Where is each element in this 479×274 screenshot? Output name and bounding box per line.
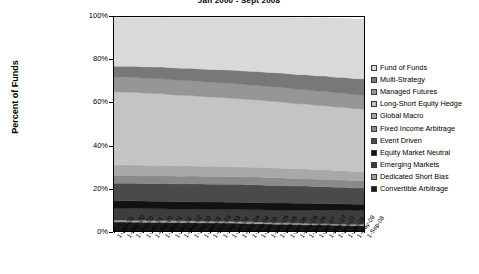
legend-item-label: Dedicated Short Bias	[380, 173, 449, 181]
legend-item[interactable]: Event Driven	[371, 135, 479, 147]
x-axis-tick-mark	[345, 229, 346, 233]
x-axis-tick-mark	[364, 229, 365, 233]
x-axis-tick-mark	[124, 229, 125, 233]
area-series-group	[114, 17, 364, 231]
y-axis-tick-label: 0%	[74, 228, 108, 236]
legend-item[interactable]: Fund of Funds	[371, 62, 479, 74]
x-axis-tick-mark	[162, 229, 163, 233]
legend-item-label: Fixed Income Arbitrage	[380, 125, 455, 133]
legend-item[interactable]: Long-Short Equity Hedge	[371, 98, 479, 110]
legend-swatch-icon	[371, 150, 377, 156]
legend-item[interactable]: Convertible Arbitrage	[371, 183, 479, 195]
x-axis-tick-mark	[210, 229, 211, 233]
chart-legend: Fund of FundsMulti-StrategyManaged Futur…	[371, 62, 479, 195]
x-axis-tick-mark	[326, 229, 327, 233]
legend-swatch-icon	[371, 174, 377, 180]
x-axis-ticks: 1-Jan-001-May-001-Sep-001-Jan-011-May-01…	[113, 233, 365, 274]
legend-item-label: Event Driven	[380, 137, 422, 145]
x-axis-tick-mark	[220, 229, 221, 233]
y-axis-tick-label: 80%	[74, 55, 108, 63]
plot-area	[113, 16, 365, 232]
x-axis-tick-mark	[268, 229, 269, 233]
x-axis-tick-mark	[249, 229, 250, 233]
legend-item[interactable]: Fixed Income Arbitrage	[371, 122, 479, 134]
legend-item-label: Multi-Strategy	[380, 76, 425, 84]
x-axis-tick-mark	[297, 229, 298, 233]
y-axis-tick-label: 100%	[74, 12, 108, 20]
legend-item[interactable]: Emerging Markets	[371, 159, 479, 171]
x-axis-tick-mark	[258, 229, 259, 233]
x-axis-tick-mark	[316, 229, 317, 233]
x-axis-tick-mark	[172, 229, 173, 233]
x-axis-tick-mark	[287, 229, 288, 233]
x-axis-tick-mark	[143, 229, 144, 233]
legend-item-label: Convertible Arbitrage	[380, 185, 448, 193]
x-axis-tick-mark	[239, 229, 240, 233]
legend-item[interactable]: Multi-Strategy	[371, 74, 479, 86]
legend-swatch-icon	[371, 65, 377, 71]
y-axis-tick-label: 40%	[74, 142, 108, 150]
x-axis-tick-mark	[335, 229, 336, 233]
legend-swatch-icon	[371, 101, 377, 107]
y-axis-label: Percent of Funds	[10, 52, 20, 142]
legend-item-label: Global Macro	[380, 112, 423, 120]
x-axis-tick-mark	[133, 229, 134, 233]
legend-item[interactable]: Dedicated Short Bias	[371, 171, 479, 183]
legend-swatch-icon	[371, 77, 377, 83]
legend-swatch-icon	[371, 186, 377, 192]
legend-swatch-icon	[371, 162, 377, 168]
x-axis-tick-mark	[191, 229, 192, 233]
legend-item[interactable]: Managed Futures	[371, 86, 479, 98]
legend-item[interactable]: Equity Market Neutral	[371, 147, 479, 159]
x-axis-tick-mark	[201, 229, 202, 233]
legend-item-label: Equity Market Neutral	[380, 149, 450, 157]
stacked-area-chart: Jan 2000 - Sept 2008 Percent of Funds 10…	[0, 0, 479, 274]
legend-item-label: Long-Short Equity Hedge	[380, 100, 462, 108]
legend-swatch-icon	[371, 138, 377, 144]
y-axis-tick-label: 60%	[74, 98, 108, 106]
legend-item[interactable]: Global Macro	[371, 110, 479, 122]
legend-swatch-icon	[371, 113, 377, 119]
legend-swatch-icon	[371, 126, 377, 132]
legend-item-label: Fund of Funds	[380, 64, 427, 72]
legend-item-label: Emerging Markets	[380, 161, 439, 169]
chart-title: Jan 2000 - Sept 2008	[113, 0, 365, 5]
y-axis-ticks: 100%80%60%40%20%0%	[72, 0, 108, 274]
legend-swatch-icon	[371, 89, 377, 95]
legend-item-label: Managed Futures	[380, 88, 437, 96]
x-axis-tick-mark	[114, 229, 115, 233]
y-axis-tick-label: 20%	[74, 185, 108, 193]
